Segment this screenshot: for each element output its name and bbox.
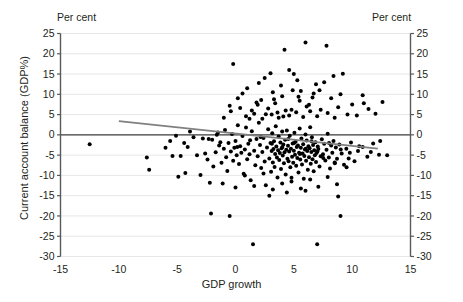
plot-area: -30-25-20-15-10-50510152025 -30-25-20-15… [0, 0, 463, 302]
svg-text:5: 5 [291, 263, 297, 275]
svg-text:10: 10 [43, 88, 55, 100]
svg-text:25: 25 [43, 27, 55, 39]
svg-text:20: 20 [417, 47, 429, 59]
svg-text:-5: -5 [417, 149, 426, 161]
svg-text:-10: -10 [39, 169, 54, 181]
svg-text:15: 15 [43, 68, 55, 80]
svg-text:-5: -5 [172, 263, 181, 275]
svg-text:10: 10 [417, 88, 429, 100]
svg-text:20: 20 [43, 47, 55, 59]
svg-text:25: 25 [417, 27, 429, 39]
svg-text:-25: -25 [417, 230, 432, 242]
svg-text:-30: -30 [417, 250, 432, 262]
svg-text:-10: -10 [417, 169, 432, 181]
svg-text:-15: -15 [417, 189, 432, 201]
svg-text:0: 0 [49, 128, 55, 140]
svg-text:5: 5 [417, 108, 423, 120]
svg-text:0: 0 [233, 263, 239, 275]
svg-text:-10: -10 [111, 263, 126, 275]
svg-text:15: 15 [417, 68, 429, 80]
x-axis-ticks: -15-10-5051015 [53, 263, 417, 275]
y-axis-ticks-right: -30-25-20-15-10-50510152025 [411, 27, 432, 262]
svg-text:-25: -25 [39, 230, 54, 242]
scatter-chart: Per cent Per cent Current account balanc… [0, 0, 463, 302]
svg-text:-15: -15 [53, 263, 68, 275]
svg-text:15: 15 [405, 263, 417, 275]
y-axis-ticks-left: -30-25-20-15-10-50510152025 [39, 27, 60, 262]
svg-text:-20: -20 [39, 210, 54, 222]
svg-text:10: 10 [346, 263, 358, 275]
data-points [88, 40, 390, 246]
svg-text:5: 5 [49, 108, 55, 120]
svg-text:-5: -5 [45, 149, 54, 161]
svg-text:0: 0 [417, 128, 423, 140]
svg-text:-30: -30 [39, 250, 54, 262]
svg-text:-15: -15 [39, 189, 54, 201]
svg-text:-20: -20 [417, 210, 432, 222]
